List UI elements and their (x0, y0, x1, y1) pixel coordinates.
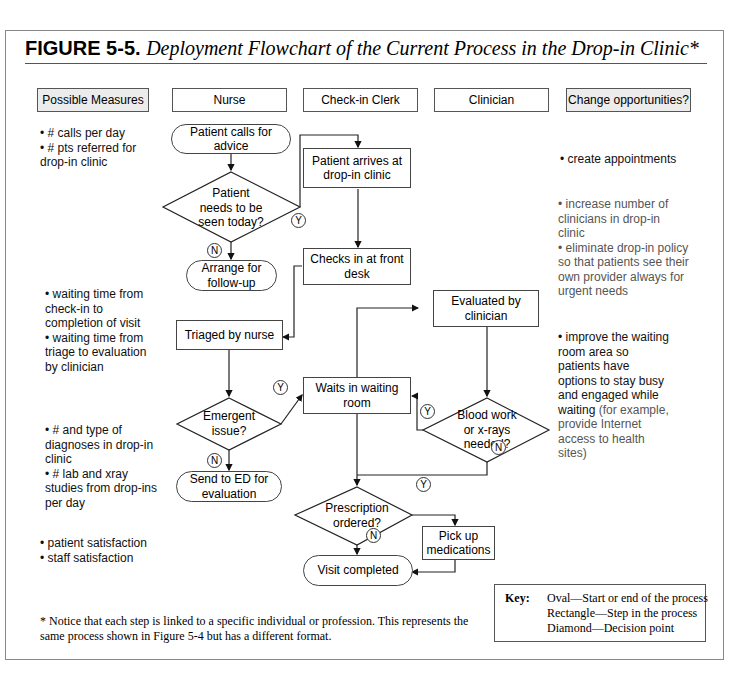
no-marker: N (491, 440, 506, 455)
no-marker: N (366, 528, 381, 543)
node-patient-calls: Patient calls for advice (171, 124, 291, 154)
yes-marker: Y (420, 404, 435, 419)
no-marker: N (207, 453, 222, 468)
node-arrange-follow-up: Arrange for follow-up (186, 260, 277, 291)
yes-marker: Y (416, 477, 431, 492)
decision-emergent-issue: Emergent issue? (189, 409, 269, 438)
node-waits-in-waiting-room: Waits in waiting room (303, 377, 411, 414)
decision-blood-work-xrays: Blood work or x-rays needed? (447, 408, 527, 452)
yes-marker: Y (291, 213, 306, 228)
key-label: Key: (505, 591, 530, 606)
footnote: * Notice that each step is linked to a s… (40, 614, 470, 644)
yes-marker: Y (273, 380, 288, 395)
node-checks-in: Checks in at front desk (303, 248, 411, 285)
no-marker: N (207, 243, 222, 258)
key-items: Oval—Start or end of the process Rectang… (547, 591, 708, 636)
node-evaluated-by-clinician: Evaluated by clinician (433, 290, 539, 327)
legend-key: Key: Oval—Start or end of the process Re… (494, 584, 706, 642)
decision-prescription-ordered: Prescription ordered? (312, 501, 402, 530)
node-patient-arrives: Patient arrives at drop-in clinic (303, 148, 411, 188)
node-pick-up-medications: Pick up medications (422, 526, 495, 560)
node-send-to-ed: Send to ED for evaluation (176, 471, 282, 502)
decision-needs-seen-today: Patient needs to be seen today? (183, 186, 279, 230)
node-triaged-by-nurse: Triaged by nurse (176, 320, 283, 350)
node-visit-completed: Visit completed (303, 555, 413, 586)
